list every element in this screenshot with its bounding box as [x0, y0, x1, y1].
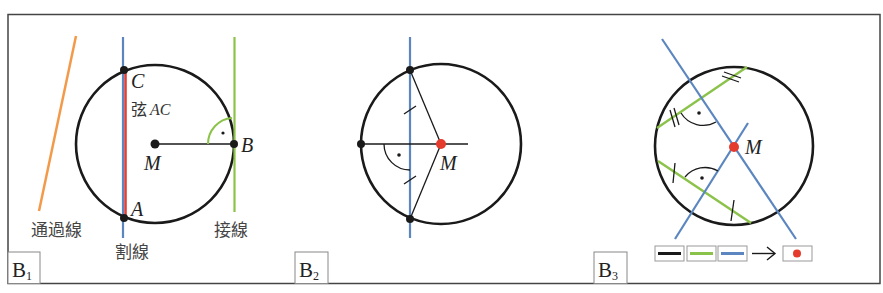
label-m-b2: M	[439, 152, 458, 174]
label-c: C	[131, 70, 145, 92]
right-angle-dot-b2	[397, 153, 401, 157]
right-angle-arc-b2	[384, 144, 410, 170]
right-angle-dot-1-b3	[697, 111, 701, 115]
legend-b3	[655, 246, 812, 261]
point-left-b2	[357, 140, 365, 148]
label-chord-name: AC	[149, 101, 171, 118]
label-a: A	[129, 198, 144, 220]
right-angle-arc-b1	[208, 118, 232, 144]
point-m-b1	[151, 140, 160, 149]
right-angle-arc-1-b3	[681, 113, 716, 125]
panel-b1: C A B M 弦 AC 通過線 割線 接線 B1	[8, 36, 253, 284]
center-point-b2	[436, 139, 446, 149]
label-b: B	[241, 134, 253, 156]
right-angle-arc-2-b3	[685, 168, 718, 177]
label-chord-prefix: 弦	[131, 100, 147, 119]
legend-red-point	[793, 250, 801, 258]
point-b	[230, 140, 238, 148]
label-passing-line: 通過線	[31, 220, 82, 240]
label-m-b1: M	[143, 152, 162, 174]
point-a	[120, 214, 128, 222]
point-c	[120, 66, 128, 74]
center-point-b3	[729, 142, 739, 152]
point-top-b2	[406, 66, 414, 74]
right-angle-dot-b1	[221, 131, 224, 134]
right-angle-dot-2-b3	[700, 176, 704, 180]
label-secant: 割線	[115, 242, 149, 262]
label-tangent: 接線	[214, 220, 248, 240]
radius-bottom-b2	[410, 144, 441, 219]
point-bottom-b2	[406, 215, 414, 223]
label-m-b3: M	[744, 136, 763, 158]
panel-b2: M B2	[295, 37, 521, 284]
circle-lines-diagram: C A B M 弦 AC 通過線 割線 接線 B1 M B2	[0, 0, 883, 293]
panel-b3: M B3	[594, 39, 813, 284]
passing-line	[39, 36, 76, 211]
